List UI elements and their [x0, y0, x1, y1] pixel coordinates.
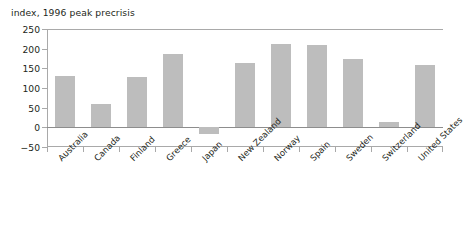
- plot-frame-left: [47, 29, 48, 147]
- x-tick-mark: [83, 147, 84, 152]
- x-tick-mark: [371, 147, 372, 152]
- x-tick-mark: [299, 147, 300, 152]
- bar: [55, 76, 75, 128]
- bar: [235, 63, 255, 127]
- x-tick-mark: [407, 147, 408, 152]
- x-tick-mark: [263, 147, 264, 152]
- x-tick-mark: [119, 147, 120, 152]
- bar: [307, 45, 327, 128]
- bar: [199, 127, 219, 134]
- bar: [379, 122, 399, 127]
- bar: [343, 59, 363, 127]
- plot-frame-top: [47, 29, 443, 30]
- y-axis-tick-marks: [0, 29, 50, 147]
- x-tick-mark: [47, 147, 48, 152]
- bar: [415, 65, 435, 127]
- bar: [163, 54, 183, 128]
- x-tick-mark: [191, 147, 192, 152]
- x-tick-mark: [227, 147, 228, 152]
- x-tick-mark: [155, 147, 156, 152]
- plot-area: [47, 29, 443, 147]
- x-tick-mark: [442, 147, 443, 152]
- bar: [127, 77, 147, 127]
- x-axis: AustraliaCanadaFinlandGreeceJapanNew Zea…: [47, 147, 443, 229]
- chart-title: index, 1996 peak precrisis: [11, 7, 135, 18]
- bar: [91, 104, 111, 127]
- x-tick-mark: [335, 147, 336, 152]
- bar: [271, 44, 291, 127]
